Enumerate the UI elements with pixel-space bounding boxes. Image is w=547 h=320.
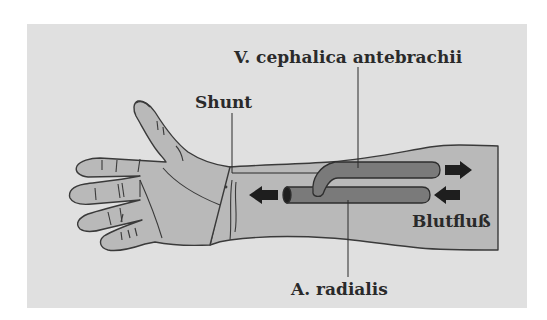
blood-flow-label: Blutfluß [412,211,491,231]
shunt-label: Shunt [195,92,252,112]
vein-label: V. cephalica antebrachii [233,47,463,67]
shunt-diagram: V. cephalica antebrachii Shunt Blutfluß … [0,0,547,320]
artery-radialis-tube [287,187,430,203]
artery-label: A. radialis [290,279,388,299]
artery-open-end [283,187,291,203]
